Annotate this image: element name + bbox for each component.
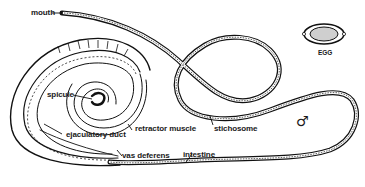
worm-posterior-body — [11, 38, 150, 165]
label-vas-deferens: vas deferens — [122, 151, 170, 160]
male-symbol: ♂ — [296, 113, 309, 129]
label-egg: EGG — [318, 49, 332, 56]
label-spicule: spicule — [47, 90, 75, 99]
whipworm-diagram: mouth EGG spicule retractor muscle stich… — [0, 0, 365, 187]
label-stichosome: stichosome — [214, 124, 258, 133]
label-mouth: mouth — [31, 8, 55, 17]
egg-illustration — [302, 24, 345, 44]
label-ejaculatory-duct: ejaculatory duct — [66, 130, 126, 139]
label-intestine: intestine — [183, 150, 216, 159]
leader-lines — [44, 13, 213, 162]
label-retractor-muscle: retractor muscle — [135, 124, 197, 133]
